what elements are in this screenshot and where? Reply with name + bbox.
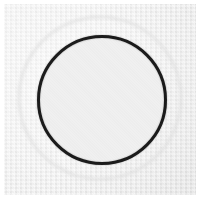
paper-background — [4, 4, 196, 195]
scanned-image-figure — [0, 0, 200, 199]
dark-circular-ring — [37, 35, 167, 165]
